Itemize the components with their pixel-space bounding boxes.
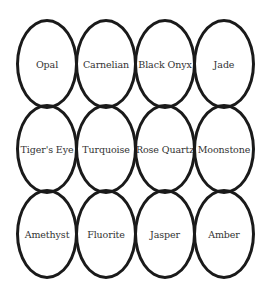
ellipse-label: Moonstone <box>198 144 251 155</box>
ellipse-opal: Opal <box>16 19 78 109</box>
ellipse-label: Opal <box>36 59 58 70</box>
ellipse-label: Fluorite <box>87 229 125 240</box>
ellipse-jade: Jade <box>193 19 255 109</box>
ellipse-tigers-eye: Tiger's Eye <box>16 104 78 194</box>
ellipse-carnelian: Carnelian <box>75 19 137 109</box>
ellipse-label: Jade <box>214 59 235 70</box>
ellipse-label: Carnelian <box>83 59 129 70</box>
ellipse-rose-quartz: Rose Quartz <box>134 104 196 194</box>
ellipse-jasper: Jasper <box>134 189 196 279</box>
ellipse-label: Tiger's Eye <box>21 144 74 155</box>
ellipse-amethyst: Amethyst <box>16 189 78 279</box>
ellipse-label: Amber <box>208 229 240 240</box>
ellipse-label: Amethyst <box>25 229 70 240</box>
ellipse-turquoise: Turquoise <box>75 104 137 194</box>
ellipse-label: Turquoise <box>82 144 130 155</box>
gemstone-ellipse-grid: Opal Carnelian Black Onyx Jade Tiger's E… <box>0 0 270 291</box>
ellipse-moonstone: Moonstone <box>193 104 255 194</box>
ellipse-label: Black Onyx <box>138 59 191 70</box>
ellipse-fluorite: Fluorite <box>75 189 137 279</box>
ellipse-label: Rose Quartz <box>136 144 194 155</box>
ellipse-black-onyx: Black Onyx <box>134 19 196 109</box>
ellipse-label: Jasper <box>150 229 180 240</box>
ellipse-amber: Amber <box>193 189 255 279</box>
